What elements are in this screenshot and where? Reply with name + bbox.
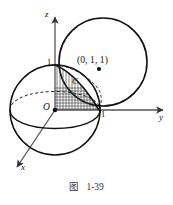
point-011-label: (0, 1, 1) [77,56,108,66]
curve-c-label: C [72,77,78,86]
caption-number: 1-39 [86,182,103,192]
z-axis-label: z [45,10,49,19]
point-011-dot [97,67,101,71]
x-axis [17,110,55,167]
y-axis-label: y [159,113,163,122]
figure-container: z y x 1 1 O C (0, 1, 1) 图1-39 [0,0,173,205]
figure-caption: 图1-39 [0,179,173,193]
z-tick-one-label: 1 [47,58,51,67]
point-origin-dot [53,108,58,113]
equator-front-solid [10,110,100,129]
figure-drawing [0,0,173,205]
y-tick-one-label: 1 [101,110,105,119]
hatch-horizontal [50,88,102,109]
caption-prefix: 图 [69,182,79,192]
x-axis-label: x [21,163,25,172]
origin-label: O [43,103,50,113]
